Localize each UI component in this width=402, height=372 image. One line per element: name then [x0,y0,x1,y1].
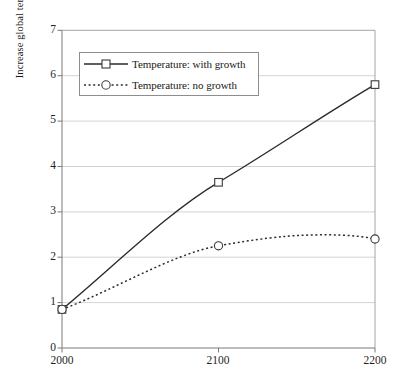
chart-legend: Temperature: with growth Temperature: no… [79,52,259,96]
data-point-marker-circle [371,235,379,243]
legend-entry-with-growth: Temperature: with growth [80,53,258,75]
series-no-growth [58,235,379,314]
legend-label-with-growth: Temperature: with growth [132,58,246,70]
series-with-growth [58,81,379,313]
legend-entry-no-growth: Temperature: no growth [80,74,258,96]
data-point-marker-square [215,179,223,187]
data-point-marker-circle [58,305,66,313]
x-axis [62,348,375,353]
legend-sample-solid-square-icon [80,55,132,73]
chart-figure: Increase global temperature (°C) 7 6 5 4… [0,0,402,372]
y-axis [58,30,63,348]
data-point-marker-square [371,81,379,89]
legend-label-no-growth: Temperature: no growth [132,79,237,91]
legend-sample-dotted-circle-icon [80,76,132,94]
data-point-marker-circle [214,242,222,250]
